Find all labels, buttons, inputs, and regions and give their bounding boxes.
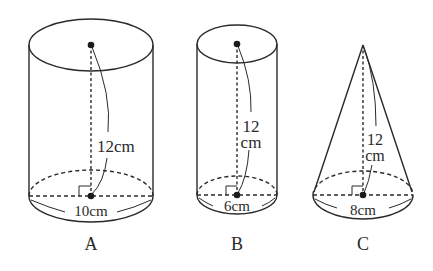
cylinder-b-height-label-line2: cm [241, 133, 262, 152]
cone-c-base-center-dot [360, 192, 367, 199]
cylinder-b-diameter-brace-left [199, 198, 213, 206]
cone-c-height-label-line1: 12 [367, 131, 383, 148]
cylinder-a-height-brace [92, 47, 109, 132]
cone-c-diameter-label: 8cm [350, 202, 376, 218]
cone-c-name-label: C [357, 234, 369, 254]
cylinder-a-height-label: 12cm [97, 137, 135, 156]
solids-diagram: 12cm 10cm A 12 cm 6cm B 12 cm 8cm C [0, 0, 433, 271]
cylinder-a-diameter-label: 10cm [74, 203, 108, 219]
cone-c-left-slant [314, 45, 363, 192]
cylinder-b-height-brace [238, 46, 251, 112]
cylinder-a-diameter-brace-right [117, 200, 151, 212]
cylinder-b-diameter-label: 6cm [224, 198, 250, 214]
cone-c-height-brace [364, 48, 376, 126]
cylinder-b-height-brace-lower [238, 150, 249, 193]
cylinder-a-name-label: A [85, 234, 98, 254]
cylinder-b [197, 25, 277, 214]
cone-c-right-slant [363, 45, 412, 192]
cylinder-a-height-brace-lower [92, 158, 107, 194]
cylinder-b-top-center-dot [234, 41, 241, 48]
cylinder-a [29, 19, 153, 222]
cylinder-b-name-label: B [231, 234, 243, 254]
cone-c-height-label-line2: cm [365, 147, 385, 164]
cylinder-a-bottom-center-dot [88, 193, 95, 200]
cylinder-a-diameter-brace-left [31, 200, 65, 212]
cone-c-height-brace-lower [364, 165, 372, 193]
cylinder-b-diameter-brace-right [262, 198, 275, 206]
cylinder-a-top-center-dot [88, 42, 95, 49]
